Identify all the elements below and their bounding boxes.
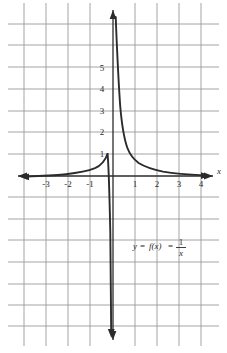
figure-canvas: 1 2 3 4 5 -3 -2 -1 1 2 3 4 x y = f(x) = … [0,0,227,353]
y-tick-3: 3 [100,106,105,116]
x-tick-1: 1 [133,179,138,189]
x-tick-neg3: -3 [42,179,50,189]
x-tick-2: 2 [155,179,160,189]
y-tick-4: 4 [100,84,105,94]
equation-fx: f(x) [149,241,162,251]
equation-equals-1: = [140,241,145,251]
x-tick-neg2: -2 [64,179,72,189]
x-tick-4: 4 [199,179,204,189]
equation-denominator: x [178,248,183,258]
equation-y: y [132,241,137,251]
x-tick-3: 3 [177,179,182,189]
y-tick-2: 2 [100,127,105,137]
reciprocal-function-plot: 1 2 3 4 5 -3 -2 -1 1 2 3 4 x y = f(x) = … [0,0,227,353]
x-axis-label: x [216,166,221,176]
y-tick-5: 5 [100,63,105,73]
y-tick-1: 1 [100,149,105,159]
equation-equals-2: = [168,241,173,251]
equation-numerator: 1 [179,237,184,247]
x-tick-neg1: -1 [86,179,94,189]
